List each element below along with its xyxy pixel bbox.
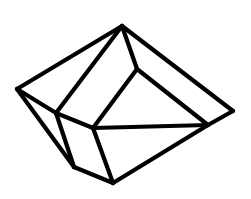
- edge-left-left_inner: [17, 89, 56, 113]
- edge-center-right_inner: [93, 125, 208, 128]
- edge-right-right_inner: [208, 111, 233, 125]
- edge-inner_upper-center: [93, 69, 137, 128]
- edge-apex-left: [17, 26, 122, 89]
- polyhedron-drawing: [0, 0, 251, 199]
- edge-inner_upper-right_inner: [137, 69, 208, 125]
- polyhedron-edges: [17, 26, 233, 183]
- edge-right_inner-bottom: [113, 125, 208, 183]
